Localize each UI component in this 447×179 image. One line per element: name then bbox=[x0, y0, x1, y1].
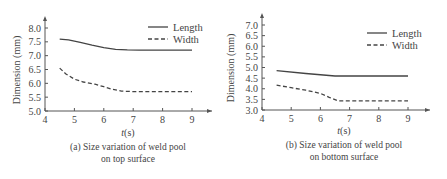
x-tick-label: 6 bbox=[101, 114, 106, 125]
caption-line: (a) Size variation of weld pool bbox=[70, 142, 186, 153]
x-tick-label: 6 bbox=[318, 113, 323, 124]
x-tick-label: 8 bbox=[160, 114, 165, 125]
series-line-length bbox=[277, 71, 408, 76]
y-tick-label: 5.0 bbox=[29, 106, 42, 117]
caption-line: on bottom surface bbox=[310, 152, 379, 162]
y-tick-label: 5.5 bbox=[246, 51, 259, 62]
y-tick-label: 3.5 bbox=[246, 94, 259, 105]
x-axis-label: t(s) bbox=[121, 127, 134, 139]
series-line-width bbox=[277, 85, 408, 101]
y-tick-label: 5.0 bbox=[246, 62, 259, 73]
y-tick-label: 6.0 bbox=[29, 78, 42, 89]
y-axis-arrow bbox=[260, 13, 264, 18]
x-axis-label-unit: (s) bbox=[124, 127, 135, 139]
figure: 4567895.05.56.06.57.07.58.0Dimension (mm… bbox=[0, 0, 447, 179]
legend-label-width: Width bbox=[173, 34, 200, 45]
y-tick-label: 6.5 bbox=[246, 30, 259, 41]
x-axis-label: t(s) bbox=[337, 125, 350, 137]
caption-line: on top surface bbox=[101, 154, 155, 164]
legend-label-width: Width bbox=[392, 40, 419, 51]
x-axis-label-unit: (s) bbox=[340, 125, 351, 137]
y-tick-label: 3.0 bbox=[246, 105, 259, 116]
y-tick-label: 6.5 bbox=[29, 64, 42, 75]
legend-label-length: Length bbox=[173, 22, 203, 33]
y-tick-label: 4.5 bbox=[246, 73, 259, 84]
y-tick-label: 6.0 bbox=[246, 41, 259, 52]
y-tick-label: 5.5 bbox=[29, 92, 42, 103]
y-axis-label: Dimension (mm) bbox=[11, 36, 23, 105]
x-tick-label: 4 bbox=[43, 114, 48, 125]
y-tick-label: 7.5 bbox=[29, 36, 42, 47]
x-axis-arrow bbox=[425, 108, 430, 112]
x-tick-label: 4 bbox=[260, 113, 265, 124]
x-axis-arrow bbox=[207, 109, 212, 113]
y-tick-label: 4.0 bbox=[246, 83, 259, 94]
caption-line: (b) Size variation of weld pool bbox=[286, 140, 403, 151]
y-tick-label: 7.0 bbox=[29, 50, 42, 61]
chart-panel-b: 4567893.03.54.04.55.05.56.06.57.0Dimensi… bbox=[225, 13, 430, 162]
x-tick-label: 8 bbox=[376, 113, 381, 124]
x-tick-label: 7 bbox=[347, 113, 352, 124]
x-tick-label: 5 bbox=[72, 114, 77, 125]
x-tick-label: 9 bbox=[190, 114, 195, 125]
x-tick-label: 7 bbox=[131, 114, 136, 125]
legend-label-length: Length bbox=[392, 28, 422, 39]
x-tick-label: 9 bbox=[406, 113, 411, 124]
y-tick-label: 7.0 bbox=[246, 20, 259, 31]
y-axis-arrow bbox=[43, 16, 47, 21]
chart-panel-a: 4567895.05.56.06.57.07.58.0Dimension (mm… bbox=[11, 16, 212, 164]
series-line-width bbox=[60, 68, 192, 92]
y-tick-label: 8.0 bbox=[29, 23, 42, 34]
y-axis-label: Dimension (mm) bbox=[225, 34, 237, 103]
x-tick-label: 5 bbox=[289, 113, 294, 124]
